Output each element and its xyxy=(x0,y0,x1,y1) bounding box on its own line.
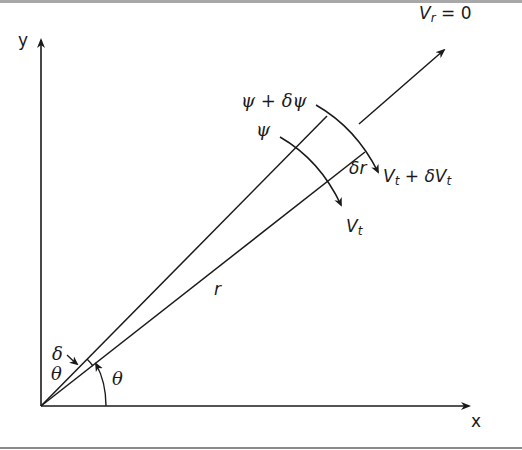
delta-label: δ xyxy=(52,345,63,363)
theta-label: θ xyxy=(112,370,123,388)
diagram-canvas xyxy=(0,0,522,450)
dtheta-pointer xyxy=(67,355,77,364)
vt-subscript: t xyxy=(358,224,363,238)
x-axis-label: x xyxy=(471,413,481,430)
dtheta-arc xyxy=(87,359,93,366)
psi-plus-dpsi-label: ψ + δψ xyxy=(241,92,307,110)
ray-psi xyxy=(41,152,365,406)
y-axis-label: y xyxy=(18,32,28,49)
diagram-frame: y x Vr = 0 ψ + δψ ψ δr Vt + δVt Vt r δ θ… xyxy=(0,0,522,450)
vt-plus-symbol: V xyxy=(383,166,395,186)
ray-psi-plus-dpsi xyxy=(41,116,327,406)
dr-label: δr xyxy=(349,160,366,177)
vt-plus-dvt-label: Vt + δVt xyxy=(383,168,451,187)
theta-arc xyxy=(96,364,106,406)
vr-arrow xyxy=(359,50,444,124)
vt-plus-sub-b: t xyxy=(446,174,451,188)
vr-symbol: V xyxy=(419,3,431,23)
r-label: r xyxy=(214,281,221,298)
vr-label: Vr = 0 xyxy=(419,5,471,24)
vt-label: Vt xyxy=(346,218,362,237)
vt-plus-mid: + δV xyxy=(399,166,446,186)
vr-equals: = 0 xyxy=(436,3,472,23)
psi-label: ψ xyxy=(256,121,270,139)
vt-symbol: V xyxy=(346,216,358,236)
theta-small-label: θ xyxy=(51,365,62,383)
